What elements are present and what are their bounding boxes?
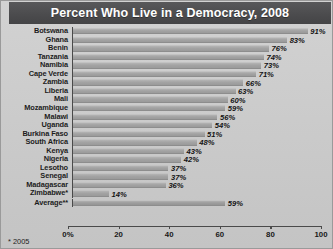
bar [73,200,225,206]
x-axis-tick [220,226,221,229]
bar-track: 73% [72,61,331,70]
bar [73,105,225,111]
bar-track: 74% [72,53,331,62]
bar [73,173,168,179]
bar-track: 76% [72,44,331,53]
x-axis-tick [270,226,271,229]
bar-track: 54% [72,121,331,130]
bar-track: 51% [72,130,331,139]
bar [73,71,256,77]
bar [73,190,109,196]
footnote: * 2005 [8,237,29,246]
bar [73,139,197,145]
bar-track: 43% [72,147,331,156]
x-axis-tick-label: 60 [215,230,224,239]
chart-figure: Percent Who Live in a Democracy, 2008 Bo… [0,0,333,249]
bar [73,88,236,94]
x-axis-line [68,226,321,227]
bar [73,131,205,137]
bar-track: 91% [72,27,331,36]
x-axis-tick-label: 40 [165,230,174,239]
bar-row: Zimbabwe*14% [2,189,331,198]
bar-track: 48% [72,138,331,147]
category-label: Zimbabwe* [2,189,72,197]
bar-value-label: 83% [287,35,305,44]
bar-rows: Botswana91%Ghana83%Benin76%Tanzania74%Na… [2,27,331,207]
x-axis-tick-label: 80 [266,230,275,239]
bar-track: 71% [72,70,331,79]
bar-row: Average**59% [2,199,331,208]
x-axis-tick-label: 0% [62,230,73,239]
bar [73,54,264,60]
bar-track: 59% [72,104,331,113]
bar-track: 63% [72,87,331,96]
bar-track: 14% [72,189,331,198]
chart-plot-area: Botswana91%Ghana83%Benin76%Tanzania74%Na… [2,25,331,247]
bar [73,165,168,171]
bar-row: Liberia63% [2,87,331,96]
bar [73,148,184,154]
bar-value-label: 36% [166,181,184,190]
bar-track: 42% [72,155,331,164]
bar [73,96,228,102]
x-axis-tick [169,226,170,229]
bar-track: 37% [72,164,331,173]
x-axis-tick-label: 100 [314,230,327,239]
bar-track: 66% [72,78,331,87]
bar [73,37,287,43]
bar-track: 37% [72,172,331,181]
x-axis-tick-label: 20 [114,230,123,239]
bar [73,79,243,85]
bar-value-label: 14% [109,189,127,198]
bar-track: 36% [72,181,331,190]
bar-value-label: 59% [225,199,243,208]
x-axis: 0%20406080100 [68,226,321,227]
bar [73,156,181,162]
page-title: Percent Who Live in a Democracy, 2008 [51,6,289,20]
bar [73,182,166,188]
chart-title-band: Percent Who Live in a Democracy, 2008 [9,2,331,24]
x-axis-tick [321,226,322,229]
bar-value-label: 91% [308,27,326,36]
x-axis-tick [68,226,69,229]
bar [73,114,217,120]
x-axis-tick [119,226,120,229]
bar-track: 60% [72,95,331,104]
category-label: Average** [2,199,72,207]
bar [73,45,269,51]
bar-track: 56% [72,112,331,121]
bar-track: 59% [72,199,331,208]
bar [73,28,308,34]
bar-track: 83% [72,36,331,45]
bar [73,62,261,68]
bar [73,122,212,128]
